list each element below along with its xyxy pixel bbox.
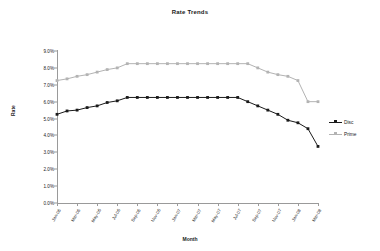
x-tick-mark xyxy=(278,203,279,206)
data-point-marker xyxy=(216,62,219,65)
data-point-marker xyxy=(166,96,169,99)
data-point-marker xyxy=(106,101,109,104)
x-tick-mark xyxy=(298,203,299,206)
data-point-marker xyxy=(116,66,119,69)
data-point-marker xyxy=(156,96,159,99)
data-point-marker xyxy=(66,77,69,80)
data-point-marker xyxy=(76,109,79,112)
legend-swatch-icon xyxy=(329,132,342,137)
chart-container: Rate Trends 9.0%8.0%7.0%6.0%5.0%4.0%3.0%… xyxy=(0,0,380,251)
data-point-marker xyxy=(196,96,199,99)
data-point-marker xyxy=(276,73,279,76)
data-point-marker xyxy=(136,96,139,99)
data-point-marker xyxy=(256,66,259,69)
data-point-marker xyxy=(256,104,259,107)
data-point-marker xyxy=(56,113,59,116)
data-point-marker xyxy=(206,62,209,65)
data-point-marker xyxy=(176,62,179,65)
series-disc xyxy=(56,96,320,148)
data-point-marker xyxy=(176,96,179,99)
data-point-marker xyxy=(246,62,249,65)
data-point-marker xyxy=(216,96,219,99)
data-point-marker xyxy=(286,119,289,122)
x-tick-mark xyxy=(238,203,239,206)
data-point-marker xyxy=(266,71,269,74)
data-point-marker xyxy=(266,109,269,112)
y-axis-title: Rate xyxy=(10,105,16,116)
x-tick-mark xyxy=(218,203,219,206)
data-point-marker xyxy=(56,79,59,82)
data-point-marker xyxy=(206,96,209,99)
legend-item-prime[interactable]: Prime xyxy=(329,128,379,140)
x-tick-mark xyxy=(117,203,118,206)
data-point-marker xyxy=(186,62,189,65)
data-point-marker xyxy=(317,100,320,103)
data-point-marker xyxy=(226,96,229,99)
data-point-marker xyxy=(226,62,229,65)
data-point-marker xyxy=(76,75,79,78)
data-point-marker xyxy=(166,62,169,65)
data-point-marker xyxy=(146,96,149,99)
x-tick-mark xyxy=(137,203,138,206)
x-axis-title: Month xyxy=(0,236,380,242)
data-point-marker xyxy=(156,62,159,65)
data-point-marker xyxy=(96,71,99,74)
data-point-marker xyxy=(126,62,129,65)
data-point-marker xyxy=(106,68,109,71)
legend-swatch-icon xyxy=(329,120,342,125)
legend-label: Prime xyxy=(344,132,357,137)
data-point-marker xyxy=(86,106,89,109)
x-tick-mark xyxy=(198,203,199,206)
legend-item-disc[interactable]: Disc xyxy=(329,116,379,128)
x-tick-mark xyxy=(77,203,78,206)
data-point-marker xyxy=(186,96,189,99)
data-point-marker xyxy=(307,127,310,130)
data-point-marker xyxy=(236,96,239,99)
data-point-marker xyxy=(116,99,119,102)
data-point-marker xyxy=(136,62,139,65)
chart-legend: DiscPrime xyxy=(329,116,379,140)
data-point-marker xyxy=(96,104,99,107)
data-point-marker xyxy=(236,62,239,65)
data-point-marker xyxy=(297,121,300,124)
x-tick-mark xyxy=(97,203,98,206)
data-point-marker xyxy=(66,110,69,113)
series-line xyxy=(57,64,318,102)
data-point-marker xyxy=(126,96,129,99)
data-point-marker xyxy=(146,62,149,65)
data-point-marker xyxy=(297,79,300,82)
x-tick-mark xyxy=(177,203,178,206)
data-point-marker xyxy=(246,100,249,103)
data-point-marker xyxy=(317,145,320,148)
x-tick-mark xyxy=(157,203,158,206)
x-tick-mark xyxy=(258,203,259,206)
x-tick-mark xyxy=(318,203,319,206)
data-point-marker xyxy=(196,62,199,65)
x-tick-mark xyxy=(57,203,58,206)
data-point-marker xyxy=(307,100,310,103)
legend-label: Disc xyxy=(344,120,353,125)
data-point-marker xyxy=(86,73,89,76)
data-point-marker xyxy=(286,75,289,78)
data-point-marker xyxy=(276,113,279,116)
